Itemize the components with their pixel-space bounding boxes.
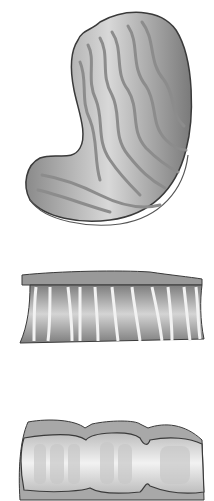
segmented-tube-illustration — [0, 410, 214, 501]
stomach-illustration — [0, 0, 214, 230]
stretched-tube-illustration — [0, 265, 214, 345]
